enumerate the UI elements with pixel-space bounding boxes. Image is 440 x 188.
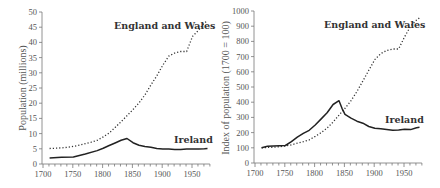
x-tick-label: 1850 — [124, 169, 141, 179]
x-tick-label: 1700 — [35, 169, 52, 179]
y-tick-label: 35 — [29, 53, 38, 63]
y-tick-label: 0 — [33, 159, 37, 169]
y-tick-label: 5 — [33, 144, 37, 154]
y-tick-label: 600 — [236, 67, 249, 77]
x-tick-label: 1950 — [184, 169, 201, 179]
x-tick-label: 1950 — [396, 168, 413, 178]
y-tick-label: 100 — [236, 143, 249, 153]
y-tick-label: 0 — [245, 158, 249, 168]
y-tick-label: 200 — [236, 128, 249, 138]
y-tick-label: 700 — [236, 52, 249, 62]
y-tick-label: 30 — [29, 68, 38, 78]
left-axes: 0510152025303540455017001750180018501900… — [29, 7, 210, 179]
x-tick-label: 1750 — [276, 168, 293, 178]
left-label-ireland: Ireland — [174, 134, 213, 145]
y-tick-label: 25 — [29, 83, 38, 93]
x-tick-label: 1700 — [247, 168, 264, 178]
y-tick-label: 40 — [29, 37, 38, 47]
right-axes: 0100200300400500600700800900100017001750… — [232, 6, 422, 178]
x-tick-label: 1800 — [94, 169, 111, 179]
left-chart-population-millions: 0510152025303540455017001750180018501900… — [17, 7, 215, 179]
x-tick-label: 1750 — [64, 169, 81, 179]
y-tick-label: 10 — [29, 129, 38, 139]
x-tick-label: 1800 — [306, 168, 323, 178]
y-tick-label: 500 — [236, 82, 249, 92]
y-tick-label: 300 — [236, 112, 249, 122]
y-tick-label: 20 — [29, 98, 38, 108]
y-tick-label: 1000 — [232, 6, 249, 16]
population-charts: 0510152025303540455017001750180018501900… — [0, 0, 440, 188]
y-tick-label: 15 — [29, 113, 38, 123]
x-tick-label: 1900 — [366, 168, 383, 178]
right-england-wales-line — [262, 18, 420, 148]
right-chart-population-index: 0100200300400500600700800900100017001750… — [220, 6, 425, 178]
right-y-axis-title: Index of population (1700 = 100) — [220, 21, 232, 155]
y-tick-label: 400 — [236, 97, 249, 107]
left-england-wales-line — [50, 21, 208, 148]
y-tick-label: 50 — [29, 7, 38, 17]
left-label-england-wales: England and Wales — [114, 20, 215, 31]
x-tick-label: 1850 — [336, 168, 353, 178]
left-y-axis-title: Population (millions) — [17, 45, 29, 130]
right-label-england-wales: England and Wales — [324, 19, 425, 30]
y-tick-label: 45 — [29, 22, 38, 32]
y-tick-label: 800 — [236, 36, 249, 46]
right-label-ireland: Ireland — [385, 114, 424, 125]
x-tick-label: 1900 — [154, 169, 171, 179]
y-tick-label: 900 — [236, 21, 249, 31]
